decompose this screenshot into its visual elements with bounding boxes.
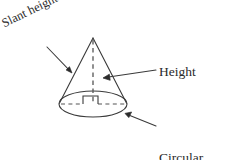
height-arrowhead xyxy=(103,74,110,80)
right-angle-marker xyxy=(83,96,98,104)
slant-height-leader-line xyxy=(47,47,70,71)
height-label: Height xyxy=(159,64,196,80)
height-leader-line xyxy=(105,70,156,78)
cone-diagram-figure: Slant height Height Circular base xyxy=(0,0,229,160)
circular-base-label-line1: Circular xyxy=(159,150,203,160)
circular-base-label: Circular base xyxy=(159,118,203,160)
slant-edge-right xyxy=(93,38,127,103)
slant-edge-left xyxy=(59,38,93,103)
circular-base-arrowhead xyxy=(125,112,132,118)
circular-base-leader-line xyxy=(127,114,156,126)
